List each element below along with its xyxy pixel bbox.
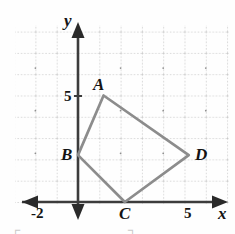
y-tick-label-5: 5 <box>64 89 72 104</box>
x-tick-label-5: 5 <box>184 206 192 221</box>
y-axis-label: y <box>64 12 72 29</box>
grid-background <box>15 25 230 205</box>
x-tick-label-neg2: -2 <box>31 206 44 221</box>
x-axis-label: x <box>218 205 227 222</box>
vertex-label-d: D <box>195 146 207 163</box>
graph-figure: A B C D y x 5 5 -2 ┌ ┐ <box>0 0 235 234</box>
vertex-label-b: B <box>61 146 72 163</box>
scan-artifact-left: ┌ <box>11 222 20 234</box>
vertex-label-c: C <box>119 205 130 222</box>
scan-artifact-right: ┐ <box>128 222 137 234</box>
vertex-label-a: A <box>93 76 104 93</box>
coordinate-plane <box>0 0 235 234</box>
